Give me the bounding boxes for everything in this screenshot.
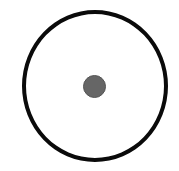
center-dot bbox=[83, 75, 106, 98]
